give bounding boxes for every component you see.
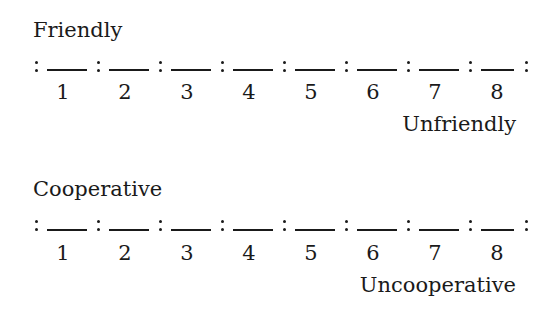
separator-colon: [220, 61, 226, 73]
scale-point-number: 7: [420, 243, 450, 264]
rating-blank-2[interactable]: [109, 69, 149, 71]
rating-blank-8[interactable]: [481, 69, 514, 71]
scale-point-number: 2: [110, 82, 140, 103]
separator-colon: [34, 220, 40, 232]
separator-colon: [344, 61, 350, 73]
scale-point-number: 4: [234, 82, 264, 103]
rating-blank-3[interactable]: [171, 69, 211, 71]
rating-blank-4[interactable]: [233, 69, 273, 71]
rating-blank-6[interactable]: [357, 69, 397, 71]
left-anchor-label: Cooperative: [33, 179, 162, 200]
scale-point-number: 7: [420, 82, 450, 103]
right-anchor-label: Uncooperative: [360, 275, 516, 296]
separator-colon: [34, 61, 40, 73]
scale-friendly-unfriendly: Friendly 1 2 3 4 5 6 7 8 Unfriendly: [0, 0, 552, 150]
rating-blank-5[interactable]: [295, 229, 335, 231]
rating-blank-4[interactable]: [233, 229, 273, 231]
scale-point-number: 8: [482, 82, 512, 103]
scale-point-number: 2: [110, 243, 140, 264]
scale-point-number: 5: [296, 82, 326, 103]
separator-colon: [524, 61, 530, 73]
scale-point-number: 3: [172, 243, 202, 264]
separator-colon: [282, 61, 288, 73]
rating-blank-2[interactable]: [109, 229, 149, 231]
separator-colon: [468, 220, 474, 232]
rating-blank-7[interactable]: [419, 69, 459, 71]
separator-colon: [468, 61, 474, 73]
separator-colon: [406, 220, 412, 232]
right-anchor-label: Unfriendly: [402, 114, 516, 135]
scale-point-number: 3: [172, 82, 202, 103]
scale-point-number: 1: [48, 82, 78, 103]
rating-blank-6[interactable]: [357, 229, 397, 231]
scale-point-number: 6: [358, 243, 388, 264]
rating-blank-7[interactable]: [419, 229, 459, 231]
scale-point-number: 5: [296, 243, 326, 264]
separator-colon: [96, 61, 102, 73]
scale-cooperative-uncooperative: Cooperative 1 2 3 4 5 6 7 8 Uncooperativ…: [0, 155, 552, 311]
scale-point-number: 8: [482, 243, 512, 264]
separator-colon: [282, 220, 288, 232]
separator-colon: [524, 220, 530, 232]
scale-point-number: 1: [48, 243, 78, 264]
separator-colon: [158, 61, 164, 73]
left-anchor-label: Friendly: [33, 20, 122, 41]
separator-colon: [220, 220, 226, 232]
scale-point-number: 4: [234, 243, 264, 264]
rating-blank-5[interactable]: [295, 69, 335, 71]
rating-blank-3[interactable]: [171, 229, 211, 231]
separator-colon: [344, 220, 350, 232]
separator-colon: [96, 220, 102, 232]
separator-colon: [158, 220, 164, 232]
rating-blank-1[interactable]: [47, 229, 87, 231]
rating-blank-1[interactable]: [47, 69, 87, 71]
rating-blank-8[interactable]: [481, 229, 514, 231]
scale-point-number: 6: [358, 82, 388, 103]
separator-colon: [406, 61, 412, 73]
